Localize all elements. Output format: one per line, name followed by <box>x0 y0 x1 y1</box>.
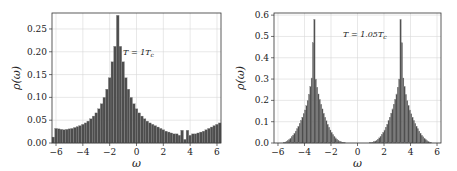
y-tick-label: 0.10 <box>27 92 47 102</box>
histogram-bar <box>173 134 176 143</box>
histogram-bar <box>289 140 290 143</box>
histogram-bar <box>393 104 394 143</box>
histogram-bar <box>84 123 87 143</box>
histogram-bar <box>336 139 337 143</box>
histogram-bar <box>381 134 382 143</box>
histogram-bar <box>401 43 402 143</box>
histogram-bar <box>385 127 386 143</box>
temperature-annotation: T = 1.05Tc <box>343 30 387 40</box>
histogram-bar <box>130 97 133 143</box>
chart-right: −6−4−202460.00.10.20.30.40.50.6ωρ(ω)T = … <box>230 0 457 171</box>
histogram-bar <box>90 119 93 143</box>
histogram-bar <box>291 137 292 143</box>
histogram-bar <box>326 121 327 143</box>
histogram-bar <box>79 126 82 143</box>
y-tick-label: 0.15 <box>27 70 47 80</box>
histogram-bar <box>98 109 101 143</box>
histogram-bar <box>87 121 90 143</box>
histogram-bar <box>303 114 304 143</box>
histogram-bar <box>197 133 200 143</box>
x-tick-label: 4 <box>187 147 193 157</box>
histogram-bar <box>103 97 106 143</box>
x-axis-label: ω <box>353 157 362 170</box>
x-tick-label: 4 <box>408 147 414 157</box>
histogram-bar <box>312 43 313 143</box>
histogram-bar <box>425 140 426 143</box>
histogram-bar <box>299 123 300 143</box>
histogram-bar <box>391 113 392 143</box>
histogram-bar <box>338 140 339 143</box>
histogram-bar <box>404 87 405 143</box>
histogram-bar <box>68 129 71 143</box>
histogram-bar <box>387 124 388 143</box>
histogram-bar <box>424 138 425 143</box>
histogram-bar <box>307 101 308 143</box>
histogram-bar <box>323 113 324 143</box>
histogram-bar <box>322 109 323 143</box>
histogram-bar <box>304 110 305 143</box>
histogram-bar <box>397 87 398 143</box>
histogram-bar <box>405 94 406 143</box>
histogram-bar <box>170 133 173 143</box>
histogram-bar <box>65 129 68 143</box>
histogram-bar <box>417 129 418 143</box>
histogram-bar <box>200 132 203 143</box>
histogram-bar <box>106 89 109 143</box>
histogram-bar <box>175 134 178 143</box>
histogram-bar <box>293 135 294 143</box>
histogram-bar <box>389 117 390 143</box>
histogram-bar <box>379 138 380 143</box>
histogram-bar <box>116 15 119 143</box>
histogram-bar <box>408 106 409 143</box>
histogram-bar <box>328 127 329 143</box>
histogram-bar <box>60 129 63 143</box>
y-tick-label: 0.25 <box>27 24 47 34</box>
x-tick-label: −4 <box>298 147 312 157</box>
histogram-bar <box>320 104 321 143</box>
histogram-bar <box>376 140 377 143</box>
histogram-bar <box>413 120 414 143</box>
histogram-bar <box>331 132 332 143</box>
histogram-bar <box>73 127 76 143</box>
histogram-bar <box>327 124 328 143</box>
histogram-bar <box>294 133 295 143</box>
histogram-bar <box>395 99 396 143</box>
histogram-bar <box>191 134 194 143</box>
histogram-bar <box>127 89 130 143</box>
histogram-bar <box>100 104 103 143</box>
x-tick-label: −6 <box>271 147 285 157</box>
histogram-bar <box>409 110 410 143</box>
histogram-bar <box>298 126 299 143</box>
histogram-bar <box>407 101 408 143</box>
histogram-bar <box>318 94 319 143</box>
histogram-bar <box>334 136 335 143</box>
y-tick-label: 0.05 <box>27 115 47 125</box>
histogram-bar <box>124 78 127 143</box>
histogram-bar <box>302 117 303 143</box>
histogram-bar <box>165 131 168 143</box>
histogram-bar <box>208 128 211 143</box>
x-tick-label: −4 <box>76 147 90 157</box>
histogram-bar <box>330 130 331 143</box>
histogram-bar <box>186 130 189 143</box>
x-tick-label: 0 <box>134 147 140 157</box>
histogram-bar <box>149 123 152 143</box>
histogram-bar <box>141 116 144 143</box>
chart-left: −6−4−202460.000.050.100.150.200.25ωρ(ω)T… <box>0 0 230 171</box>
histogram-bar <box>57 129 60 143</box>
histogram-bar <box>143 119 146 143</box>
histogram-bar <box>421 135 422 143</box>
histogram-bar <box>311 78 312 143</box>
histogram-bar <box>335 138 336 143</box>
y-tick-label: 0.6 <box>255 10 270 20</box>
histogram-bar <box>119 46 122 143</box>
x-tick-label: 2 <box>160 147 166 157</box>
histogram-bar <box>392 109 393 143</box>
histogram-bar <box>178 135 181 143</box>
histogram-bar <box>159 128 162 143</box>
histogram-bar <box>399 79 400 143</box>
histogram-bar <box>411 114 412 143</box>
histogram-bar <box>154 126 157 143</box>
histogram-bar <box>388 121 389 143</box>
histogram-bar <box>216 124 219 143</box>
